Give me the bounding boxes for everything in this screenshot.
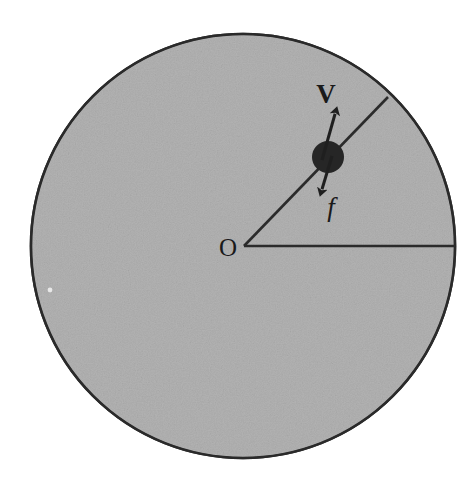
figure-root: O V f [0,0,475,488]
center-label-o: O [219,234,237,261]
disk-diagram-svg: O V f [0,0,475,488]
velocity-label-v: V [316,79,336,109]
scan-speck [48,288,53,293]
